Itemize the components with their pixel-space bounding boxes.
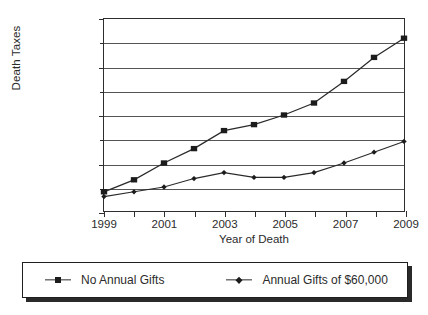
x-axis-tick [255, 211, 256, 217]
x-axis-tick [104, 211, 105, 217]
series-line [104, 141, 404, 196]
data-point-diamond [281, 175, 286, 180]
data-point-square [401, 36, 407, 41]
series-line [104, 38, 404, 192]
x-axis-tick [315, 211, 316, 217]
chart-legend: No Annual Gifts Annual Gifts of $60,000 [22, 262, 408, 298]
series-no-annual-gifts [101, 36, 407, 195]
series-annual-gifts-60000 [101, 139, 406, 200]
plot-area: $1 Million$1.2 Million$1.4 Million$1.6 M… [103, 18, 405, 212]
x-axis-tick-label: 2007 [333, 218, 359, 230]
x-axis-tick [285, 211, 286, 217]
data-point-square [101, 189, 107, 194]
data-point-square [161, 160, 167, 165]
legend-item-annual-gifts-60000: Annual Gifts of $60,000 [226, 273, 387, 287]
data-point-diamond [371, 150, 376, 155]
data-point-diamond [101, 194, 106, 199]
x-axis-tick [134, 211, 135, 217]
x-axis-tick-label: 2001 [152, 218, 178, 230]
x-axis-tick [195, 211, 196, 217]
y-axis-title: Death Taxes [10, 0, 22, 118]
legend-label: No Annual Gifts [81, 273, 164, 287]
data-point-square [311, 100, 317, 105]
data-point-diamond [311, 170, 316, 175]
x-axis-tick [406, 211, 407, 217]
data-point-square [131, 177, 137, 182]
data-point-square [251, 122, 257, 127]
legend-item-no-annual-gifts: No Annual Gifts [45, 273, 164, 287]
data-point-diamond [221, 170, 226, 175]
x-axis-tick [376, 211, 377, 217]
data-point-diamond [191, 176, 196, 181]
legend-label: Annual Gifts of $60,000 [262, 273, 387, 287]
series-plot [104, 19, 404, 211]
x-axis-tick [164, 211, 165, 217]
data-point-square [281, 112, 287, 117]
x-axis-tick-label: 2009 [393, 218, 419, 230]
data-point-diamond [161, 184, 166, 189]
x-axis-tick [346, 211, 347, 217]
data-point-square [371, 55, 377, 60]
x-axis-tick [225, 211, 226, 217]
x-axis-title: Year of Death [103, 233, 405, 245]
x-axis-tick-label: 2005 [272, 218, 298, 230]
legend-marker-square-icon [45, 274, 71, 286]
data-point-diamond [251, 175, 256, 180]
legend-marker-diamond-icon [226, 274, 252, 286]
data-point-square [341, 79, 347, 84]
data-point-diamond [131, 189, 136, 194]
data-point-square [191, 146, 197, 151]
x-axis-tick-label: 2003 [212, 218, 238, 230]
data-point-diamond [341, 160, 346, 165]
data-point-diamond [401, 139, 406, 144]
x-axis-tick-label: 1999 [91, 218, 117, 230]
death-taxes-line-chart: Death Taxes $1 Million$1.2 Million$1.4 M… [0, 0, 428, 315]
data-point-square [221, 128, 227, 133]
